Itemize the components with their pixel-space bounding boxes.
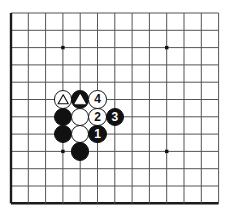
black-stone	[54, 125, 72, 143]
white-stone	[71, 125, 89, 143]
go-board-diagram: 4231	[0, 0, 237, 221]
black-stone: 1	[88, 125, 106, 143]
move-number-label: 2	[94, 111, 101, 123]
black-stone	[71, 90, 89, 108]
move-number-label: 1	[94, 128, 101, 140]
white-stone: 2	[88, 108, 106, 126]
white-stone: 4	[88, 90, 106, 108]
black-stone: 3	[106, 108, 124, 126]
black-stone	[71, 142, 89, 160]
stone-layer: 4231	[0, 0, 237, 221]
white-stone	[54, 90, 72, 108]
move-number-label: 3	[111, 111, 118, 123]
white-stone	[71, 108, 89, 126]
black-stone	[54, 108, 72, 126]
move-number-label: 4	[94, 93, 101, 105]
